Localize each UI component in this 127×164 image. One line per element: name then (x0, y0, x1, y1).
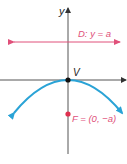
vertex-label: V (73, 67, 81, 78)
y-axis-label: y (58, 5, 66, 17)
focus-label: F = (0, −a) (72, 113, 116, 124)
vertex-point (65, 77, 70, 82)
parabola-diagram: y D: y = a V F = (0, −a) (0, 0, 127, 164)
directrix-label: D: y = a (78, 28, 111, 39)
focus-point (65, 111, 70, 116)
